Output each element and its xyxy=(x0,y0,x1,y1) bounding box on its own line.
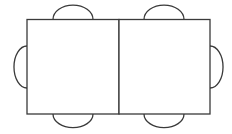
chair-bottom-left-icon xyxy=(53,114,93,128)
table-right xyxy=(119,20,210,115)
table-left xyxy=(27,20,119,115)
tables-group xyxy=(27,20,210,115)
chair-bottom-right-icon xyxy=(144,114,184,128)
chair-left-icon xyxy=(14,46,27,88)
chair-top-right-icon xyxy=(144,5,184,19)
chair-right-icon xyxy=(210,46,223,88)
chair-top-left-icon xyxy=(53,5,93,19)
table-arrangement-diagram xyxy=(0,0,232,134)
